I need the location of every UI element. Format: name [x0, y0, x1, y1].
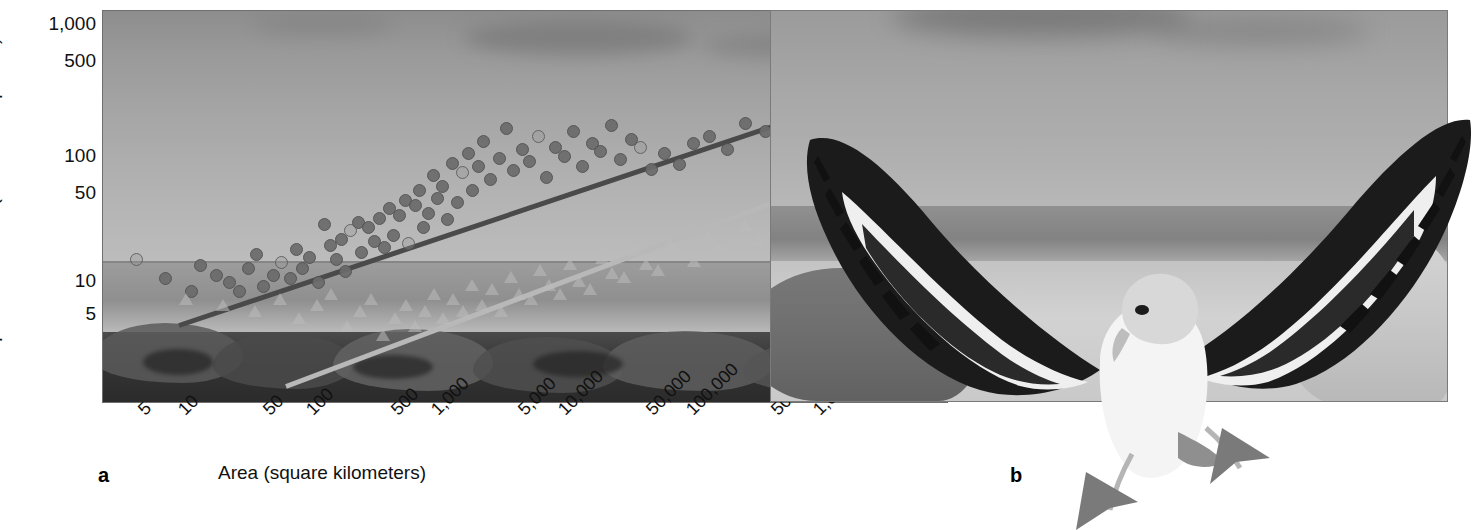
y-tick-500: 500: [64, 50, 96, 72]
data-point-circle: [516, 143, 529, 156]
data-point-triangle: [310, 299, 324, 311]
panel-label-b: b: [1010, 464, 1022, 487]
data-point-triangle: [475, 299, 489, 311]
panel-b-photo: [770, 10, 1448, 402]
x-axis-title: Area (square kilometers): [218, 462, 426, 484]
data-point-circle: [477, 135, 490, 148]
y-tick-5: 5: [85, 303, 96, 325]
data-point-triangle: [752, 233, 766, 245]
data-point-circle: [242, 262, 255, 275]
data-point-circle: [417, 221, 430, 234]
data-point-circle: [393, 209, 406, 222]
data-point-triangle: [494, 305, 508, 317]
data-point-triangle: [674, 249, 688, 261]
data-point-triangle: [427, 288, 441, 300]
data-point-triangle: [738, 219, 752, 231]
data-point-triangle: [408, 320, 422, 332]
y-tick-1000: 1,000: [48, 13, 96, 35]
data-point-circle: [413, 184, 426, 197]
data-point-circle: [721, 143, 734, 156]
data-point-triangle: [248, 305, 262, 317]
y-tick-100: 100: [64, 145, 96, 167]
data-point-triangle: [353, 305, 367, 317]
data-point-triangle: [179, 293, 193, 305]
data-point-circle: [318, 218, 331, 231]
data-point-circle: [614, 153, 627, 166]
y-tick-50: 50: [75, 182, 96, 204]
data-point-triangle: [583, 283, 597, 295]
data-point-triangle: [292, 312, 306, 324]
data-point-circle: [532, 130, 545, 143]
data-point-circle: [451, 196, 464, 209]
data-point-triangle: [724, 247, 738, 259]
data-point-triangle: [376, 329, 390, 341]
data-point-circle: [387, 229, 400, 242]
left-webbed-foot: [1076, 472, 1138, 530]
data-point-circle: [605, 119, 618, 132]
data-point-circle: [250, 248, 263, 261]
data-point-triangle: [663, 237, 677, 249]
data-point-triangle: [595, 252, 609, 264]
data-point-circle: [507, 164, 520, 177]
data-point-circle: [567, 125, 580, 138]
data-point-circle: [558, 150, 571, 163]
panel-a-chart: Species richness (number of species) 1,0…: [0, 0, 800, 529]
data-point-circle: [233, 285, 246, 298]
data-point-triangle: [388, 312, 402, 324]
data-point-circle: [462, 147, 475, 160]
data-point-circle: [296, 262, 309, 275]
data-point-triangle: [465, 279, 479, 291]
data-point-circle: [330, 253, 343, 266]
data-point-circle: [284, 272, 297, 285]
data-point-circle: [373, 212, 386, 225]
data-point-circle: [402, 237, 415, 250]
data-point-circle: [523, 155, 536, 168]
data-point-circle: [493, 152, 506, 165]
data-point-circle: [194, 259, 207, 272]
data-point-triangle: [399, 299, 413, 311]
data-point-circle: [378, 241, 391, 254]
data-point-triangle: [533, 264, 547, 276]
data-point-circle: [739, 117, 752, 130]
data-point-triangle: [446, 293, 460, 305]
data-point-triangle: [701, 230, 715, 242]
data-point-circle: [634, 141, 647, 154]
data-point-circle: [275, 256, 288, 269]
data-point-circle: [362, 221, 375, 234]
data-point-triangle: [524, 293, 538, 305]
data-point-circle: [472, 160, 485, 173]
data-point-circle: [500, 122, 513, 135]
data-point-circle: [431, 192, 444, 205]
data-point-triangle: [436, 312, 450, 324]
albatross-illustration: [770, 10, 1475, 530]
data-point-triangle: [273, 293, 287, 305]
data-point-triangle: [687, 255, 701, 267]
data-point-circle: [303, 251, 316, 264]
left-wing-dark: [807, 138, 1100, 395]
bird-head: [1122, 274, 1198, 344]
data-point-circle: [658, 147, 671, 160]
data-point-circle: [339, 265, 352, 278]
data-point-triangle: [628, 244, 642, 256]
data-point-triangle: [617, 271, 631, 283]
data-point-triangle: [563, 258, 577, 270]
data-point-circle: [267, 269, 280, 282]
data-point-circle: [409, 199, 422, 212]
data-point-circle: [210, 269, 223, 282]
y-tick-10: 10: [75, 270, 96, 292]
data-point-circle: [687, 137, 700, 150]
data-point-triangle: [485, 283, 499, 295]
data-point-circle: [436, 180, 449, 193]
data-point-circle: [130, 253, 143, 266]
data-point-circle: [703, 130, 716, 143]
data-point-circle: [576, 160, 589, 173]
data-point-triangle: [364, 293, 378, 305]
data-point-circle: [673, 158, 686, 171]
data-point-circle: [594, 145, 607, 158]
data-point-circle: [355, 246, 368, 259]
data-point-circle: [159, 272, 172, 285]
bird-eye: [1135, 305, 1149, 315]
data-point-triangle: [216, 299, 230, 311]
right-webbed-foot: [1210, 428, 1270, 484]
panel-label-a: a: [98, 464, 109, 487]
